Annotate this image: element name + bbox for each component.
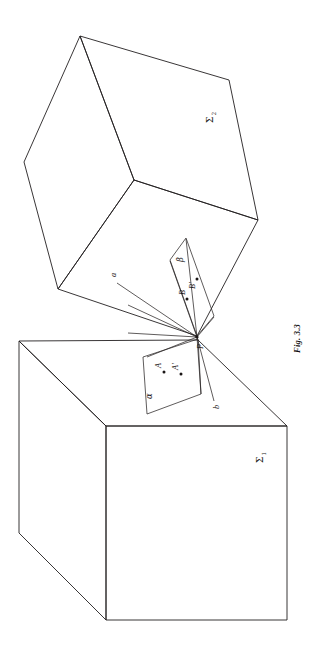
line-fan-left-upper [128,305,197,337]
cube-sigma-2-right-face [80,36,258,220]
label-sigma-2: Σ 2 [205,112,217,124]
label-point-a: A [154,362,163,369]
plane-alpha [143,339,201,414]
lines-through-p [117,239,214,401]
label-plane-beta: β [175,257,185,263]
label-line-a: a [109,273,118,277]
cube-sigma-2-front-face [58,180,258,336]
label-point-b-prime: B' [188,282,197,289]
label-plane-alpha: α [144,393,154,399]
cube-sigma-1-left-face [19,341,106,620]
point-a-dot [163,371,166,374]
point-p-dot [195,335,198,338]
cube-sigma-1-top-face [19,340,287,426]
cube-sigma-2-top-face [24,36,134,289]
line-fan-horizontal [128,333,197,337]
cube-sigma-1 [19,340,287,620]
label-point-a-prime: A' [171,363,180,371]
label-line-b: b [212,405,221,409]
cube-sigma-2 [24,36,258,336]
figure-svg: Σ 2 Σ 1 α β P A A' B B' a b Fig. 3.3 [0,0,331,658]
point-b-dot [186,298,189,301]
label-point-p: P [196,344,205,350]
label-sigma-1-subscript: 1 [261,452,267,456]
label-point-b: B [178,290,187,295]
label-sigma-1: Σ 1 [255,452,267,463]
figure-caption: Fig. 3.3 [292,323,302,354]
figure-root: Σ 2 Σ 1 α β P A A' B B' a b Fig. 3.3 [0,0,331,658]
label-sigma-2-subscript: 2 [211,112,217,116]
label-sigma-1-base: Σ [255,457,265,463]
point-a-prime-dot [180,373,183,376]
point-b-prime-dot [196,278,199,281]
plane-alpha-outline [143,339,201,414]
label-sigma-2-base: Σ [205,117,215,123]
